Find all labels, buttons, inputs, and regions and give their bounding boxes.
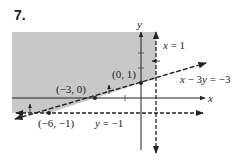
point-0-1 <box>139 81 143 85</box>
x-axis-label: x <box>207 92 213 104</box>
problem-number: 7. <box>14 7 26 23</box>
line-x-equals-1-label: x = 1 <box>162 39 185 51</box>
inequality-graph: 7. x y x = 1 y = −1 x − 3y = −3 (0, 1) (… <box>0 0 246 163</box>
point-neg3-0-label: (−3, 0) <box>56 83 86 96</box>
y-axis-label: y <box>136 18 142 30</box>
point-0-1-label: (0, 1) <box>112 68 136 81</box>
line-y-equals-neg1-label: y = −1 <box>94 117 123 129</box>
point-neg6-neg1-label: (−6, −1) <box>38 117 75 130</box>
line-x-minus-3y-label: x − 3y = −3 <box>179 73 231 85</box>
point-neg6-neg1 <box>47 111 51 115</box>
point-neg3-0 <box>93 96 97 100</box>
